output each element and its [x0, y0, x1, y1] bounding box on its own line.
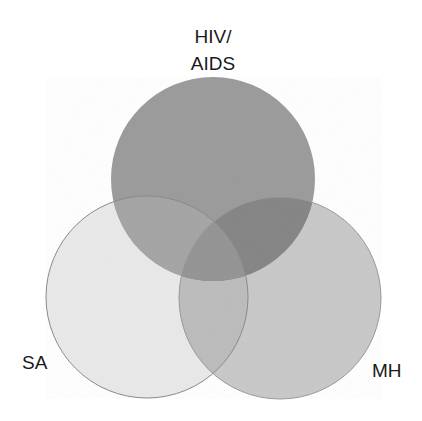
- label-sa: SA: [22, 352, 48, 373]
- label-hiv-line2: AIDS: [191, 53, 235, 74]
- label-hiv-line1: HIV/: [195, 26, 233, 47]
- label-mh: MH: [372, 360, 402, 381]
- venn-diagram: HIV/ AIDS SA MH: [0, 0, 422, 421]
